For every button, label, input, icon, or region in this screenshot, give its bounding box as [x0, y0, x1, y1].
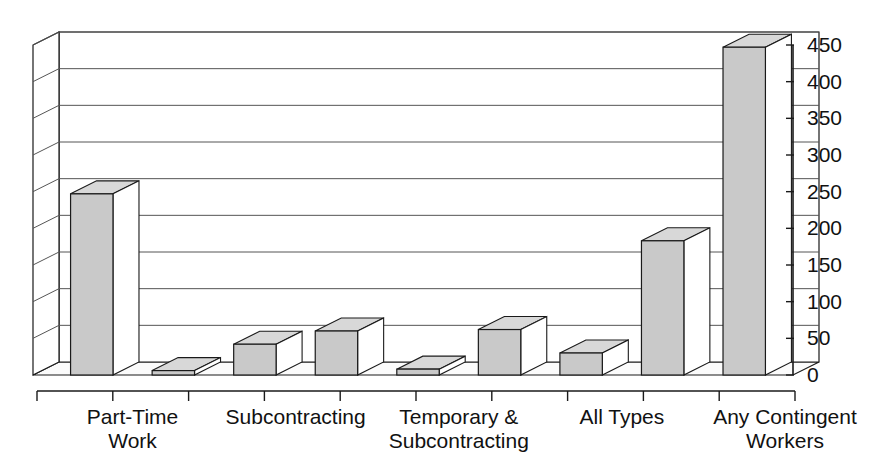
- chart-canvas: [0, 0, 877, 460]
- x-axis-category-label: Any ContingentWorkers: [675, 405, 877, 453]
- x-axis-label-line2: Work: [23, 429, 243, 453]
- x-axis-label-line1: Any Contingent: [675, 405, 877, 429]
- bar: [641, 228, 709, 375]
- y-axis-label: 100: [807, 291, 842, 312]
- x-axis-label-line2: Workers: [675, 429, 877, 453]
- y-axis-label: 450: [807, 34, 842, 55]
- bar-front-face: [723, 47, 765, 375]
- bar-front-face: [478, 330, 520, 375]
- bar: [71, 181, 139, 375]
- bar: [723, 34, 791, 375]
- x-axis-label-line2: Subcontracting: [349, 429, 569, 453]
- y-axis-label: 150: [807, 254, 842, 275]
- bar-front-face: [71, 194, 113, 375]
- bar-front-face: [152, 371, 194, 375]
- bar-side-face: [765, 34, 791, 375]
- bar-front-face: [234, 344, 276, 375]
- bar-front-face: [560, 353, 602, 375]
- bar: [315, 318, 383, 375]
- bar-chart: 450400350300250200150100500Part-TimeWork…: [0, 0, 877, 460]
- y-axis-label: 0: [807, 364, 819, 385]
- y-axis-label: 400: [807, 71, 842, 92]
- bar-front-face: [641, 241, 683, 375]
- bar: [478, 317, 546, 375]
- y-axis-label: 250: [807, 181, 842, 202]
- chart-left-wall: [33, 32, 59, 375]
- bar-front-face: [397, 369, 439, 375]
- y-axis-label: 350: [807, 107, 842, 128]
- bar-side-face: [684, 228, 710, 375]
- y-axis-label: 50: [807, 327, 830, 348]
- bar-front-face: [315, 331, 357, 375]
- bar-side-face: [113, 181, 139, 375]
- y-axis-label: 300: [807, 144, 842, 165]
- y-axis-label: 200: [807, 217, 842, 238]
